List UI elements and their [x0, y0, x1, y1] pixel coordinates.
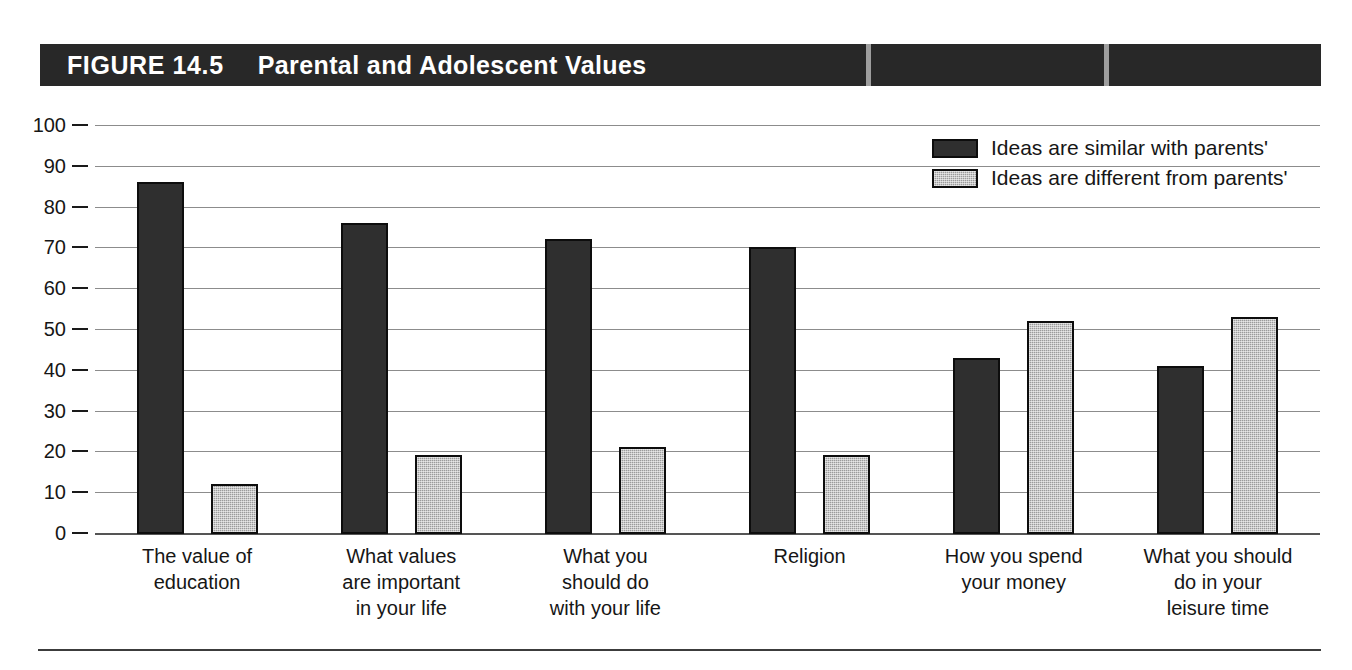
- y-axis-tick-label: 0: [22, 523, 66, 543]
- y-axis-tick-dash: [72, 491, 88, 493]
- y-axis-tick-dash: [72, 450, 88, 452]
- bar-similar: [1157, 366, 1204, 534]
- y-axis-tick-dash: [72, 369, 88, 371]
- gridline: [95, 411, 1320, 412]
- legend-swatch-icon-similar: [932, 139, 978, 158]
- x-axis-category-label: Religion: [708, 543, 912, 569]
- y-axis-tick-dash: [72, 165, 88, 167]
- y-axis-tick-label: 70: [22, 237, 66, 257]
- y-axis-tick-label: 80: [22, 197, 66, 217]
- y-axis-tick-label: 100: [22, 115, 66, 135]
- legend-item: Ideas are different from parents': [932, 164, 1288, 192]
- gridline: [95, 207, 1320, 208]
- bar-similar: [953, 358, 1000, 534]
- chart-legend: Ideas are similar with parents' Ideas ar…: [932, 134, 1288, 194]
- y-axis-tick-label: 50: [22, 319, 66, 339]
- bar-similar: [137, 182, 184, 534]
- y-axis-tick-label: 60: [22, 278, 66, 298]
- gridline: [95, 370, 1320, 371]
- legend-label-similar: Ideas are similar with parents': [991, 136, 1268, 160]
- bar-similar: [749, 247, 796, 534]
- gridline: [95, 288, 1320, 289]
- bar-different: [1231, 317, 1278, 534]
- figure-bottom-rule: [38, 649, 1321, 651]
- gridline: [95, 247, 1320, 248]
- legend-swatch-icon-different: [932, 169, 978, 188]
- figure-container: FIGURE 14.5 Parental and Adolescent Valu…: [0, 0, 1352, 670]
- x-axis-category-label: The value of education: [95, 543, 299, 595]
- y-axis-tick-label: 90: [22, 156, 66, 176]
- bar-different: [211, 484, 258, 534]
- x-axis-category-label: What values are important in your life: [299, 543, 503, 621]
- legend-label-different: Ideas are different from parents': [991, 166, 1288, 190]
- chart-plot-area: 1009080706050403020100The value of educa…: [0, 0, 1352, 670]
- y-axis-tick-dash: [72, 410, 88, 412]
- gridline: [95, 125, 1320, 126]
- y-axis-tick-dash: [72, 206, 88, 208]
- gridline: [95, 533, 1320, 535]
- y-axis-tick-dash: [72, 124, 88, 126]
- bar-different: [415, 455, 462, 534]
- x-axis-category-label: How you spend your money: [912, 543, 1116, 595]
- gridline: [95, 451, 1320, 452]
- x-axis-category-label: What you should do in your leisure time: [1116, 543, 1320, 621]
- y-axis-tick-label: 20: [22, 441, 66, 461]
- bar-similar: [545, 239, 592, 534]
- y-axis-tick-dash: [72, 246, 88, 248]
- gridline: [95, 329, 1320, 330]
- bar-different: [1027, 321, 1074, 534]
- bar-different: [823, 455, 870, 534]
- bar-similar: [341, 223, 388, 534]
- x-axis-category-label: What you should do with your life: [503, 543, 707, 621]
- bar-different: [619, 447, 666, 534]
- y-axis-tick-dash: [72, 328, 88, 330]
- y-axis-tick-dash: [72, 532, 88, 534]
- gridline: [95, 492, 1320, 493]
- y-axis-tick-label: 30: [22, 401, 66, 421]
- y-axis-tick-dash: [72, 287, 88, 289]
- y-axis-tick-label: 40: [22, 360, 66, 380]
- y-axis-tick-label: 10: [22, 482, 66, 502]
- legend-item: Ideas are similar with parents': [932, 134, 1288, 162]
